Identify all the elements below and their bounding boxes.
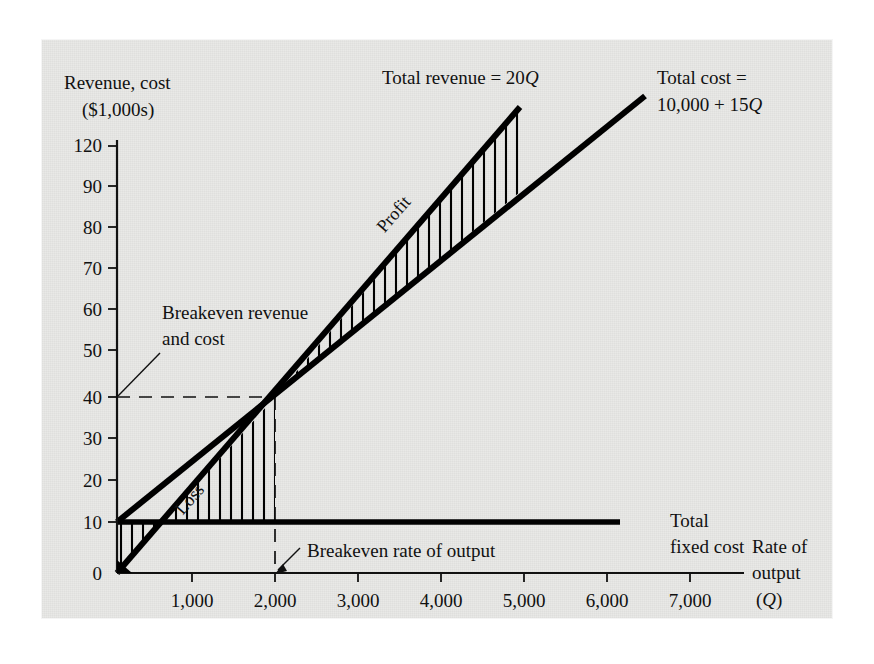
total-cost-label-line2: 10,000 + 15Q	[657, 94, 762, 115]
profit-region-label: Profit	[372, 192, 414, 236]
x-axis-title-line3: (Q)	[756, 589, 782, 611]
total-fixed-cost-line1: Total	[670, 510, 709, 531]
x-tick-label: 6,000	[586, 590, 629, 611]
y-axis-title-line1: Revenue, cost	[64, 72, 171, 93]
total-cost-label-q: Q	[748, 94, 762, 115]
y-tick-label: 120	[74, 135, 103, 156]
x-axis-ticks	[192, 573, 690, 582]
y-tick-label: 10	[83, 512, 102, 533]
breakeven-rc-line2: and cost	[162, 328, 226, 349]
total-revenue-label-text: Total revenue = 20	[382, 67, 525, 88]
breakeven-rc-leader-line	[118, 353, 160, 396]
breakeven-chart-figure: 120 90 80 70 60 50 40 30 20 10 0 1,000 2…	[0, 0, 874, 664]
y-tick-label: 30	[83, 428, 102, 449]
y-tick-label-origin: 0	[93, 563, 103, 584]
y-tick-label: 40	[83, 387, 102, 408]
total-cost-label: Total cost = 10,000 + 15Q	[657, 67, 762, 115]
breakeven-chart-svg: 120 90 80 70 60 50 40 30 20 10 0 1,000 2…	[42, 40, 832, 618]
y-tick-label: 20	[83, 470, 102, 491]
x-tick-label: 2,000	[254, 590, 297, 611]
x-tick-label: 5,000	[503, 590, 546, 611]
total-fixed-cost-label: Total fixed cost	[670, 510, 745, 557]
y-tick-label: 50	[83, 340, 102, 361]
x-axis-title-line1: Rate of	[752, 536, 808, 557]
total-fixed-cost-line2: fixed cost	[670, 536, 745, 557]
x-axis-title: Rate of output (Q)	[752, 536, 808, 611]
y-tick-label: 60	[83, 299, 102, 320]
x-tick-label: 4,000	[420, 590, 463, 611]
total-cost-label-line2-text: 10,000 + 15	[657, 94, 748, 115]
breakeven-rate-label: Breakeven rate of output	[307, 540, 496, 561]
y-axis-title-line2: ($1,000s)	[82, 99, 154, 121]
x-tick-label: 7,000	[669, 590, 712, 611]
total-revenue-label: Total revenue = 20Q	[382, 67, 539, 88]
chart-panel: 120 90 80 70 60 50 40 30 20 10 0 1,000 2…	[42, 40, 832, 618]
x-axis-title-q: Q	[762, 589, 776, 610]
x-tick-labels: 1,000 2,000 3,000 4,000 5,000 6,000 7,00…	[171, 590, 712, 611]
y-axis-title: Revenue, cost ($1,000s)	[64, 72, 171, 121]
breakeven-rc-line1: Breakeven revenue	[162, 302, 308, 323]
breakeven-rate-annotation: Breakeven rate of output	[275, 540, 496, 574]
total-cost-label-line1: Total cost =	[657, 67, 747, 88]
x-axis-title-line2: output	[752, 562, 801, 583]
y-tick-label: 80	[83, 217, 102, 238]
y-tick-labels: 120 90 80 70 60 50 40 30 20 10 0	[74, 135, 103, 584]
y-tick-label: 70	[83, 258, 102, 279]
y-tick-label: 90	[83, 176, 102, 197]
total-revenue-label-q: Q	[525, 67, 539, 88]
x-tick-label: 3,000	[337, 590, 380, 611]
y-axis-ticks	[108, 146, 117, 522]
x-tick-label: 1,000	[171, 590, 214, 611]
